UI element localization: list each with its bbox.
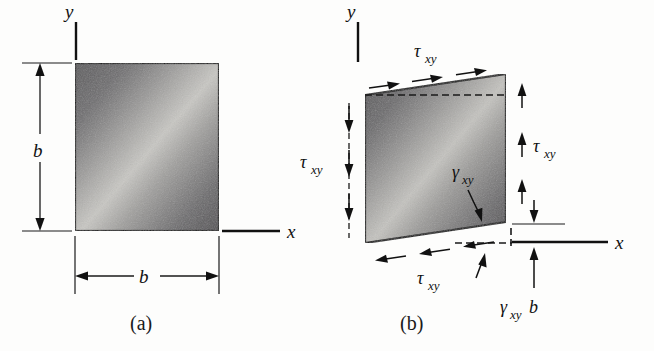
corner-gap-arrow-head bbox=[478, 253, 486, 268]
shear-stress-right-subscript: xy bbox=[543, 146, 556, 161]
shear-strain-figure: y x b b (a) bbox=[0, 0, 654, 351]
top-arrow-2-head bbox=[430, 75, 443, 83]
shear-displacement-symbol: γ bbox=[500, 297, 508, 317]
panel-a-height-arrow-up bbox=[35, 63, 44, 76]
shear-arrows-bottom bbox=[375, 241, 494, 263]
bottom-arrow-3-head bbox=[375, 255, 388, 263]
shear-displacement-label: γ xy b bbox=[500, 297, 538, 322]
panel-b: y x τ xy bbox=[300, 1, 624, 335]
shear-arrows-left bbox=[345, 103, 354, 238]
shear-strain-subscript: xy bbox=[461, 172, 474, 187]
shear-stress-left-subscript: xy bbox=[310, 162, 323, 177]
top-arrow-1-head bbox=[387, 82, 400, 90]
shear-stress-top-symbol: τ bbox=[414, 41, 421, 61]
panel-a-width-arrow-right bbox=[206, 271, 219, 280]
left-arrow-1-head bbox=[345, 120, 354, 133]
shear-stress-bottom-subscript: xy bbox=[427, 278, 440, 293]
shear-stress-bottom-label: τ xy bbox=[417, 268, 440, 293]
shear-displacement-length: b bbox=[529, 297, 538, 317]
shear-strain-symbol: γ bbox=[452, 162, 460, 182]
bottom-arrow-1-head bbox=[463, 241, 476, 249]
panel-a-width-arrow-left bbox=[75, 271, 88, 280]
bottom-arrow-2-head bbox=[419, 248, 432, 256]
bottom-arrow-3-shaft bbox=[384, 256, 406, 259]
panel-a-width-label: b bbox=[139, 266, 149, 287]
panel-b-x-axis-label: x bbox=[614, 232, 624, 253]
right-arrow-1-head bbox=[518, 83, 527, 96]
panel-b-y-axis-label: y bbox=[345, 1, 356, 22]
shear-stress-left-symbol: τ bbox=[300, 152, 307, 172]
deformed-element bbox=[365, 74, 506, 243]
top-arrow-3-head bbox=[474, 68, 487, 76]
panel-a-x-axis-label: x bbox=[286, 221, 296, 242]
shear-displacement-dimension bbox=[530, 247, 539, 288]
top-arrow-2-shaft bbox=[412, 78, 434, 81]
panel-a-height-label: b bbox=[33, 140, 43, 161]
top-arrow-3-shaft bbox=[456, 72, 478, 75]
left-arrow-2-head bbox=[345, 164, 354, 177]
left-arrow-3-head bbox=[345, 208, 354, 221]
right-arrow-2-head bbox=[518, 132, 527, 145]
shear-displacement-arrow-head bbox=[530, 247, 539, 260]
panel-a-caption: (a) bbox=[130, 312, 152, 335]
shear-stress-right-symbol: τ bbox=[533, 136, 540, 156]
top-arrow-1-shaft bbox=[369, 85, 391, 88]
shear-stress-right-label: τ xy bbox=[533, 136, 556, 161]
panel-a-y-axis-label: y bbox=[63, 1, 74, 22]
bottom-arrow-2-shaft bbox=[428, 249, 450, 252]
shear-displacement-subscript: xy bbox=[509, 307, 522, 322]
corner-gap-indicator bbox=[476, 253, 487, 278]
shear-arrows-right bbox=[518, 83, 527, 204]
panel-b-caption: (b) bbox=[400, 312, 423, 335]
shear-stress-top-subscript: xy bbox=[424, 51, 437, 66]
panel-a: y x b b (a) bbox=[22, 1, 296, 335]
shear-stress-top-label: τ xy bbox=[414, 41, 437, 66]
figure-svg: y x b b (a) bbox=[0, 0, 654, 351]
right-arrow-3-head bbox=[518, 179, 527, 192]
panel-a-height-arrow-down bbox=[35, 218, 44, 231]
right-offset-dimension bbox=[512, 200, 565, 224]
right-offset-arrow-head bbox=[530, 210, 539, 223]
undeformed-square bbox=[75, 63, 219, 231]
shear-stress-left-label: τ xy bbox=[300, 152, 323, 177]
shear-stress-bottom-symbol: τ bbox=[417, 268, 424, 288]
